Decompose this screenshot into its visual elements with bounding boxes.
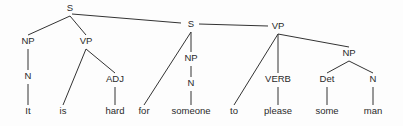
tree-edge xyxy=(86,49,115,73)
tree-edge xyxy=(70,16,86,35)
node-np: NP xyxy=(21,35,34,46)
word-man: man xyxy=(364,105,382,116)
word-someone: someone xyxy=(171,105,210,116)
tree-edge xyxy=(28,16,70,35)
tree-edge xyxy=(144,32,191,105)
node-n: N xyxy=(370,73,377,84)
node-vp: VP xyxy=(272,20,285,31)
node-n: N xyxy=(25,70,32,81)
tree-edge xyxy=(278,34,349,47)
tree-edges xyxy=(28,14,373,105)
node-s: S xyxy=(188,18,194,29)
word-hard: hard xyxy=(105,105,124,116)
word-some: some xyxy=(315,105,338,116)
node-det: Det xyxy=(320,73,335,84)
tree-labels: SNPVPNItisADJhardSforNPNsomeoneVPtoVERBp… xyxy=(21,2,382,116)
node-adj: ADJ xyxy=(106,73,124,84)
word-is: is xyxy=(60,105,67,116)
node-s: S xyxy=(67,2,73,13)
word-for: for xyxy=(138,105,149,116)
word-to: to xyxy=(230,105,238,116)
tree-svg: SNPVPNItisADJhardSforNPNsomeoneVPtoVERBp… xyxy=(0,0,403,126)
tree-edge xyxy=(199,24,268,26)
node-n: N xyxy=(188,77,195,88)
word-it: It xyxy=(25,105,31,116)
word-please: please xyxy=(264,105,292,116)
tree-edge xyxy=(234,34,278,105)
tree-edge xyxy=(63,49,86,105)
tree-edge xyxy=(327,61,349,73)
syntax-tree-diagram: SNPVPNItisADJhardSforNPNsomeoneVPtoVERBp… xyxy=(0,0,403,126)
node-np: NP xyxy=(342,47,355,58)
tree-edge xyxy=(349,61,373,73)
node-np: NP xyxy=(184,52,197,63)
node-vp: VP xyxy=(80,35,93,46)
tree-edge xyxy=(72,14,181,23)
node-verb: VERB xyxy=(265,73,291,84)
